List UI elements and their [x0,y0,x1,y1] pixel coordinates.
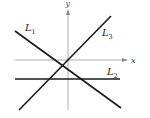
label-l1: L 1 [24,22,36,36]
coordinate-plane: x y L 1 L 2 L 3 [0,0,150,118]
label-l3: L 3 [101,27,113,41]
x-axis-arrow-icon [122,58,128,62]
x-axis-label: x [131,56,136,65]
label-l2-sub: 2 [114,72,118,80]
y-axis-label: y [65,0,71,8]
label-l1-sub: 1 [32,28,36,36]
label-l2: L 2 [106,66,118,80]
label-l3-sub: 3 [109,33,113,41]
x-axis: x [15,56,136,65]
y-axis-arrow-icon [66,9,70,15]
y-axis: y [65,0,71,110]
